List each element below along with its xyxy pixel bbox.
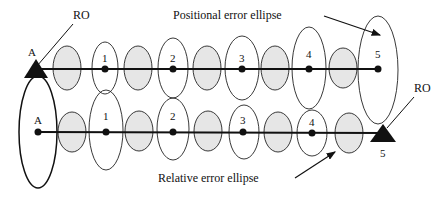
bottom-point-label-2: 2 <box>170 110 176 122</box>
ro-label-bottom: RO <box>414 81 431 95</box>
ro-label-top: RO <box>73 8 90 22</box>
station-point <box>240 129 247 136</box>
station-point <box>306 66 313 73</box>
ro-pointer-line <box>387 97 414 128</box>
bottom-start-label: A <box>34 114 42 126</box>
station-point <box>309 130 316 137</box>
top-point-label-5: 5 <box>375 48 381 60</box>
station-point <box>239 66 246 73</box>
station-point <box>170 66 177 73</box>
station-point <box>375 66 382 73</box>
error-ellipse-diagram: RO Positional error ellipse A 1 2 3 4 5 … <box>0 0 448 197</box>
positional-error-title: Positional error ellipse <box>173 8 282 22</box>
bottom-point-label-4: 4 <box>309 116 315 128</box>
top-point-label-4: 4 <box>306 48 312 60</box>
top-point-label-3: 3 <box>239 52 245 64</box>
station-point <box>35 129 42 136</box>
station-point <box>170 129 177 136</box>
bottom-point-label-1: 1 <box>103 110 109 122</box>
station-point <box>102 66 109 73</box>
shaded-ellipse <box>194 111 222 151</box>
top-point-label-2: 2 <box>170 52 176 64</box>
bottom-end-label: 5 <box>380 147 386 159</box>
station-point <box>103 129 110 136</box>
top-start-label: A <box>28 46 36 58</box>
relative-error-title: Relative error ellipse <box>158 171 259 185</box>
bottom-point-label-3: 3 <box>240 114 246 126</box>
shaded-ellipse <box>125 111 153 151</box>
top-row <box>24 16 398 124</box>
traverse-line-bottom <box>38 132 383 133</box>
top-point-label-1: 1 <box>102 52 108 64</box>
